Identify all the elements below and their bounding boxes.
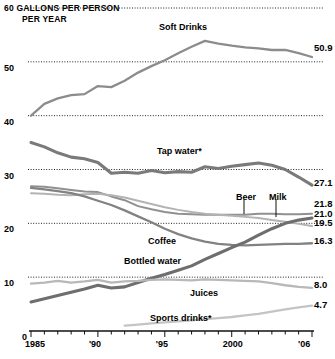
plot-area bbox=[0, 0, 335, 359]
series-label-coffee: Coffee bbox=[148, 236, 176, 246]
end-value-coffee: 16.3 bbox=[314, 235, 333, 246]
series-label-sports-drinks: Sports drinks* bbox=[150, 313, 212, 323]
series-label-beer: Beer bbox=[236, 192, 256, 202]
y-tick-label: 30 bbox=[4, 171, 14, 181]
y-tick-label: 50 bbox=[4, 63, 14, 73]
series-label-juices: Juices bbox=[190, 288, 218, 298]
y-tick-label: 40 bbox=[4, 117, 14, 127]
end-value-bottled-water: 21.0 bbox=[314, 208, 333, 219]
series-label-milk: Milk bbox=[269, 192, 287, 202]
x-tick-label: 1985 bbox=[25, 339, 45, 349]
end-value-juices: 8.0 bbox=[314, 279, 327, 290]
x-tick-label: '90 bbox=[89, 339, 101, 349]
beverage-consumption-chart: 60 GALLONS PER PERSON PER YEAR 504030201… bbox=[0, 0, 335, 359]
y-tick-label: 10 bbox=[4, 278, 14, 288]
end-value-tap-water: 27.1 bbox=[314, 177, 333, 188]
series-label-soft-drinks: Soft Drinks bbox=[159, 22, 207, 32]
x-tick-label: 2000 bbox=[223, 339, 243, 349]
series-line-soft-drinks bbox=[31, 41, 312, 116]
series-line-juices bbox=[31, 279, 312, 288]
end-value-sports-drinks: 4.7 bbox=[314, 299, 327, 310]
series-label-bottled-water: Bottled water bbox=[124, 256, 181, 266]
x-tick-label: '06 bbox=[298, 339, 310, 349]
x-tick-label: '95 bbox=[156, 339, 168, 349]
y-tick-label: 20 bbox=[4, 224, 14, 234]
end-value-soft-drinks: 50.9 bbox=[314, 42, 333, 53]
series-label-tap-water: Tap water* bbox=[157, 146, 202, 156]
